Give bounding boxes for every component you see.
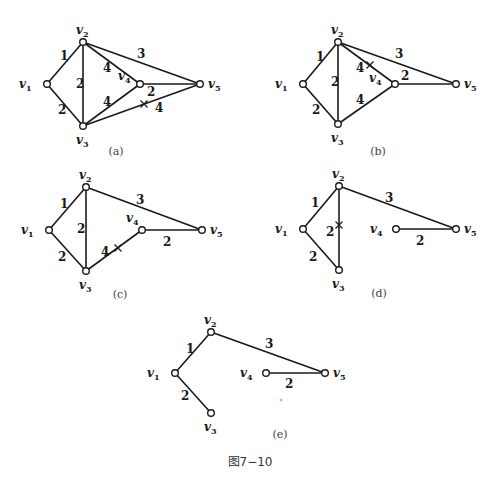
cross-mark-icon bbox=[367, 62, 374, 69]
edge-weight: 3 bbox=[136, 193, 144, 207]
edge-weight: 3 bbox=[395, 47, 403, 61]
mst-figure: 12244324v1v2v3v4v5(a)1224432v1v2v3v4v5(b… bbox=[0, 0, 499, 495]
node-label-v2: v2 bbox=[331, 23, 344, 39]
edge-weight: 1 bbox=[60, 49, 68, 63]
edge-v1-v3 bbox=[49, 230, 86, 271]
edge-weight: 3 bbox=[385, 191, 393, 205]
node-v3 bbox=[83, 268, 90, 275]
cross-mark-icon bbox=[115, 245, 122, 252]
node-v2 bbox=[336, 183, 343, 190]
node-label-v5: v5 bbox=[464, 222, 477, 238]
edge-weight: 2 bbox=[331, 75, 339, 89]
edge-weight: 4 bbox=[155, 101, 163, 115]
node-v2 bbox=[335, 39, 342, 46]
node-label-v2: v2 bbox=[332, 167, 345, 183]
subfigure-b: 1224432v1v2v3v4v5(b) bbox=[275, 23, 477, 158]
edge-weight: 3 bbox=[265, 337, 273, 351]
node-label-v5: v5 bbox=[210, 223, 223, 239]
node-v2 bbox=[208, 329, 215, 336]
node-v1 bbox=[172, 370, 179, 377]
edge-weight: 1 bbox=[60, 197, 68, 211]
edge-weight: 2 bbox=[401, 69, 409, 83]
node-v4 bbox=[392, 81, 399, 88]
subfigure-caption: (b) bbox=[370, 145, 386, 158]
edge-weight: 4 bbox=[356, 61, 364, 75]
node-v4 bbox=[263, 370, 270, 377]
subfigure-caption: (c) bbox=[113, 288, 128, 301]
edge-weight: 2 bbox=[181, 389, 189, 403]
edge-weight: 2 bbox=[312, 103, 320, 117]
node-label-v2: v2 bbox=[79, 168, 92, 184]
speck-artifact bbox=[280, 399, 283, 402]
node-label-v1: v1 bbox=[275, 222, 288, 238]
edge-v2-v4 bbox=[83, 42, 140, 84]
node-v5 bbox=[453, 81, 460, 88]
node-label-v5: v5 bbox=[208, 77, 221, 93]
subfigure-caption: (a) bbox=[108, 145, 123, 158]
subfigure-a: 12244324v1v2v3v4v5(a) bbox=[19, 23, 221, 158]
edge-weight: 2 bbox=[326, 225, 334, 239]
edge-v2-v4 bbox=[338, 42, 395, 84]
node-label-v1: v1 bbox=[21, 223, 34, 239]
node-v5 bbox=[197, 81, 204, 88]
subfigure-e: 1232v1v2v3v4v5(e) bbox=[147, 313, 346, 441]
node-label-v1: v1 bbox=[275, 77, 288, 93]
node-label-v5: v5 bbox=[464, 77, 477, 93]
node-label-v3: v3 bbox=[331, 131, 344, 147]
subfigures: 12244324v1v2v3v4v5(a)1224432v1v2v3v4v5(b… bbox=[19, 23, 477, 441]
edge-weight: 1 bbox=[311, 196, 319, 210]
node-label-v4: v4 bbox=[126, 211, 139, 227]
edge-v3-v4 bbox=[86, 230, 142, 271]
edge-v3-v4 bbox=[338, 84, 395, 124]
node-label-v3: v3 bbox=[76, 133, 89, 149]
node-label-v2: v2 bbox=[76, 23, 89, 39]
node-v2 bbox=[80, 39, 87, 46]
subfigure-caption: (e) bbox=[272, 428, 287, 441]
node-v1 bbox=[46, 227, 53, 234]
node-v3 bbox=[335, 121, 342, 128]
node-v3 bbox=[336, 267, 343, 274]
node-v3 bbox=[208, 410, 215, 417]
edge-weight: 4 bbox=[103, 61, 111, 75]
node-label-v3: v3 bbox=[332, 277, 345, 293]
edge-weight: 4 bbox=[101, 245, 109, 259]
node-v3 bbox=[80, 123, 87, 130]
edge-v3-v5 bbox=[83, 84, 200, 126]
edge-v1-v3 bbox=[303, 84, 338, 124]
edge-weight: 2 bbox=[76, 77, 84, 91]
edge-v2-v5 bbox=[339, 186, 456, 229]
node-label-v3: v3 bbox=[204, 420, 217, 436]
figure-title: 图7−10 bbox=[228, 455, 273, 469]
node-label-v3: v3 bbox=[79, 278, 92, 294]
node-v1 bbox=[300, 81, 307, 88]
node-label-v5: v5 bbox=[333, 366, 346, 382]
edge-weight: 2 bbox=[163, 235, 171, 249]
subfigure-c: 122432v1v2v3v4v5(c) bbox=[21, 168, 223, 301]
node-v1 bbox=[44, 81, 51, 88]
edge-weight: 2 bbox=[285, 377, 293, 391]
edge-weight: 2 bbox=[147, 85, 155, 99]
node-label-v2: v2 bbox=[204, 313, 217, 329]
edge-v3-v4 bbox=[83, 84, 140, 126]
node-label-v4: v4 bbox=[240, 366, 253, 382]
edge-weight: 2 bbox=[58, 250, 66, 264]
node-v2 bbox=[83, 184, 90, 191]
edge-weight: 2 bbox=[416, 234, 424, 248]
edge-weight: 4 bbox=[356, 93, 364, 107]
node-label-v1: v1 bbox=[147, 366, 160, 382]
edge-weight: 2 bbox=[309, 250, 317, 264]
edge-weight: 1 bbox=[186, 342, 194, 356]
node-label-v4: v4 bbox=[118, 69, 131, 85]
node-v4 bbox=[393, 226, 400, 233]
node-v5 bbox=[453, 226, 460, 233]
edge-weight: 3 bbox=[137, 47, 145, 61]
edge-weight: 2 bbox=[58, 103, 66, 117]
node-label-v1: v1 bbox=[19, 77, 32, 93]
node-v4 bbox=[139, 227, 146, 234]
subfigure-caption: (d) bbox=[371, 287, 387, 300]
node-v4 bbox=[137, 81, 144, 88]
edge-weight: 2 bbox=[77, 222, 85, 236]
node-label-v4: v4 bbox=[370, 222, 383, 238]
edge-v1-v2 bbox=[303, 186, 339, 229]
edge-weight: 1 bbox=[316, 50, 324, 64]
